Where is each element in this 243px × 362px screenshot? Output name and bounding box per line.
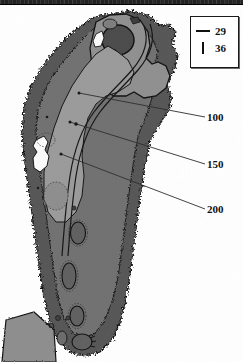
yardage-label-200: 200	[207, 203, 224, 215]
legend-value-36: 36	[215, 42, 226, 54]
legend-row-dash: 29	[191, 22, 238, 40]
legend-value-29: 29	[215, 25, 226, 37]
legend-row-bar: 36	[191, 39, 238, 57]
vertical-bar-icon	[191, 39, 215, 57]
horizontal-dash-icon	[191, 22, 215, 40]
yardage-label-100: 100	[207, 111, 224, 123]
yardage-label-150: 150	[207, 158, 224, 170]
scan-header-bar	[0, 0, 243, 5]
legend-box: 29 36	[190, 16, 239, 68]
scan-edge-line	[0, 4, 243, 5]
hole-map-canvas: 29 36 100 150 200	[0, 0, 243, 362]
